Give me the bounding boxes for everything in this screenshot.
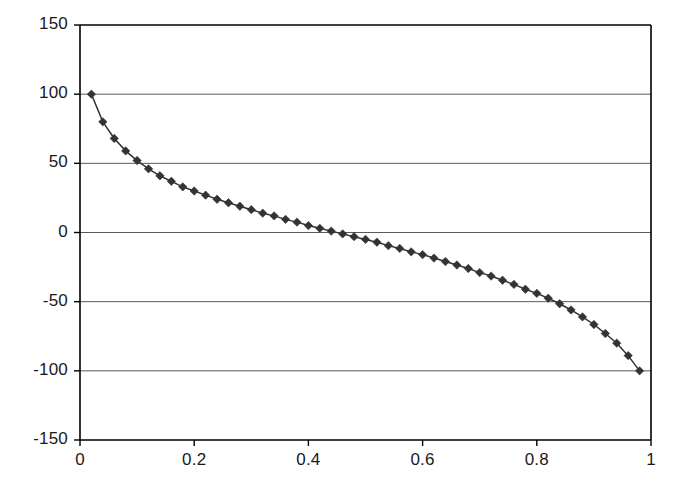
y-tick-label-5: -100	[33, 360, 68, 380]
data-point	[555, 300, 563, 308]
data-point	[476, 268, 484, 276]
data-point	[567, 306, 575, 314]
data-point	[213, 195, 221, 203]
x-tick-label-0: 0	[40, 450, 120, 470]
data-point	[498, 276, 506, 284]
data-point	[87, 90, 95, 98]
data-point	[453, 261, 461, 269]
x-tick-label-5: 1	[611, 450, 680, 470]
data-point	[259, 209, 267, 217]
gridlines-group	[80, 94, 651, 371]
data-point	[99, 118, 107, 126]
y-tick-label-2: 50	[49, 152, 68, 172]
data-point	[270, 212, 278, 220]
data-point	[190, 187, 198, 195]
data-point	[544, 294, 552, 302]
data-point	[281, 215, 289, 223]
data-point	[373, 238, 381, 246]
y-tick-label-6: -150	[33, 429, 68, 449]
y-axis-ticks-group	[74, 25, 80, 440]
data-point	[316, 224, 324, 232]
chart-container: 150100500-50-100-150 00.20.40.60.81	[0, 0, 680, 494]
data-point	[350, 232, 358, 240]
data-point	[236, 202, 244, 210]
x-axis-ticks-group	[80, 440, 651, 446]
x-tick-label-2: 0.4	[268, 450, 348, 470]
data-point	[293, 218, 301, 226]
data-point	[361, 235, 369, 243]
x-tick-label-3: 0.6	[383, 450, 463, 470]
data-point	[179, 183, 187, 191]
data-point	[430, 254, 438, 262]
y-tick-label-1: 100	[39, 83, 68, 103]
data-point	[327, 227, 335, 235]
y-tick-label-3: 0	[58, 222, 68, 242]
data-point	[418, 250, 426, 258]
data-point	[487, 272, 495, 280]
y-tick-label-0: 150	[39, 14, 68, 34]
y-tick-label-4: -50	[43, 291, 68, 311]
x-tick-label-1: 0.2	[154, 450, 234, 470]
data-point	[533, 289, 541, 297]
data-point	[156, 172, 164, 180]
data-point	[167, 177, 175, 185]
data-point	[578, 313, 586, 321]
data-point	[247, 205, 255, 213]
data-point	[396, 244, 404, 252]
data-point	[304, 221, 312, 229]
data-point	[521, 285, 529, 293]
data-point	[464, 264, 472, 272]
data-point	[510, 280, 518, 288]
data-point	[441, 257, 449, 265]
data-point	[201, 191, 209, 199]
data-point	[384, 241, 392, 249]
data-point	[224, 199, 232, 207]
plot-area	[0, 0, 680, 494]
data-point	[407, 248, 415, 256]
x-tick-label-4: 0.8	[497, 450, 577, 470]
data-point	[338, 230, 346, 238]
